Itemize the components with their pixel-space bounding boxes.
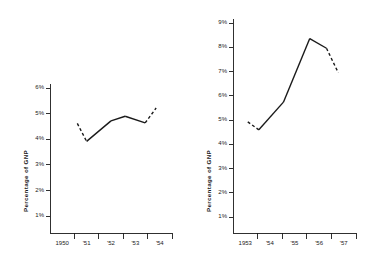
y-tick-label: 9% [199,19,227,25]
x-tick-label: 1950 [50,240,74,246]
data-line-segment-dashed [248,122,259,130]
x-tick-label: 1953 [233,240,258,246]
y-tick-label: 3% [16,161,44,167]
data-line-segment-solid [111,116,125,121]
y-tick-label: 5% [16,110,44,116]
data-line-segment-solid [125,116,145,123]
chart-panel-right: Percentage of GNP 1%2%3%4%5%6%7%8%9%1953… [184,0,367,272]
x-tick-label: '51 [74,240,98,246]
y-tick-label: 4% [16,135,44,141]
y-tick-label: 3% [199,165,227,171]
data-line-segment-solid [283,39,309,103]
x-tick-label: '57 [331,240,356,246]
y-tick-label: 6% [199,92,227,98]
y-tick-label: 2% [16,187,44,193]
x-tick-label: '52 [99,240,123,246]
y-tick-label: 5% [199,116,227,122]
data-line-segment-solid [310,39,327,49]
data-line-segment-dashed [77,123,86,141]
data-line-segment-dashed [326,48,338,73]
y-tick-label: 6% [16,84,44,90]
x-tick-label: '54 [148,240,172,246]
y-tick-label: 4% [199,140,227,146]
x-tick-label: '53 [123,240,147,246]
x-tick-label: '55 [282,240,307,246]
two-panel-line-chart-figure: Percentage of GNP 1%2%3%4%5%6%1950'51'52… [0,0,367,272]
data-line-segment-dashed [145,108,156,123]
y-tick-label: 8% [199,43,227,49]
chart-panel-left: Percentage of GNP 1%2%3%4%5%6%1950'51'52… [0,0,184,272]
x-tick-label: '54 [258,240,283,246]
y-tick-label: 1% [16,212,44,218]
y-tick-label: 7% [199,68,227,74]
x-tick-label: '56 [307,240,332,246]
data-line-segment-solid [259,102,284,130]
data-line-segment-solid [87,121,111,142]
y-tick-label: 1% [199,213,227,219]
plot-area-right [184,0,367,272]
y-tick-label: 2% [199,189,227,195]
